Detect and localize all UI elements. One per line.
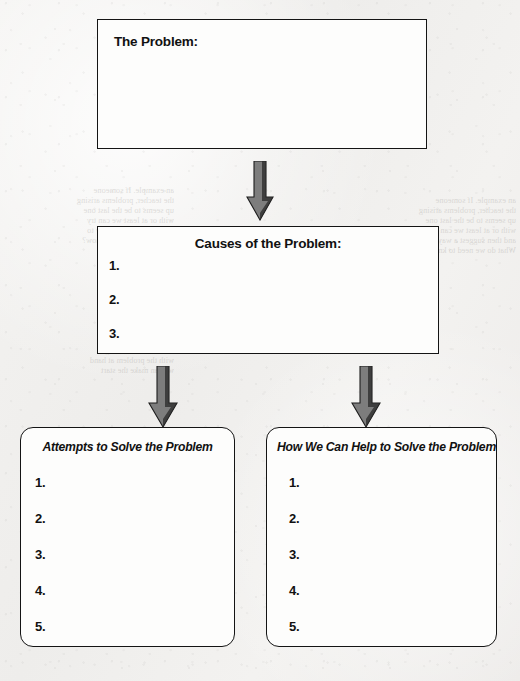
arrow-problem-to-causes-icon bbox=[246, 161, 274, 221]
attempts-box[interactable]: Attempts to Solve the Problem 1. 2. 3. 4… bbox=[20, 427, 235, 647]
help-list: 1. 2. 3. 4. 5. bbox=[289, 475, 299, 655]
arrow-causes-to-help-icon bbox=[351, 366, 381, 428]
attempts-list: 1. 2. 3. 4. 5. bbox=[35, 475, 45, 655]
attempts-box-title: Attempts to Solve the Problem bbox=[21, 440, 234, 454]
list-item[interactable]: 4. bbox=[35, 583, 45, 598]
list-item[interactable]: 4. bbox=[289, 583, 299, 598]
help-box-title: How We Can Help to Solve the Problem bbox=[277, 440, 496, 454]
list-item[interactable]: 1. bbox=[289, 475, 299, 490]
list-item[interactable]: 3. bbox=[109, 326, 119, 341]
arrow-causes-to-attempts-icon bbox=[148, 366, 178, 428]
worksheet-page: an example. If someone the teacher, prob… bbox=[0, 0, 520, 681]
list-item[interactable]: 5. bbox=[289, 619, 299, 634]
problem-box-title: The Problem: bbox=[114, 34, 198, 49]
list-item[interactable]: 2. bbox=[109, 292, 119, 307]
causes-list: 1. 2. 3. bbox=[109, 258, 119, 360]
list-item[interactable]: 3. bbox=[35, 547, 45, 562]
list-item[interactable]: 2. bbox=[289, 511, 299, 526]
help-box[interactable]: How We Can Help to Solve the Problem 1. … bbox=[266, 427, 497, 647]
causes-box[interactable]: Causes of the Problem: 1. 2. 3. bbox=[97, 226, 439, 354]
list-item[interactable]: 1. bbox=[109, 258, 119, 273]
list-item[interactable]: 2. bbox=[35, 511, 45, 526]
problem-box[interactable]: The Problem: bbox=[97, 19, 427, 149]
list-item[interactable]: 1. bbox=[35, 475, 45, 490]
causes-box-title: Causes of the Problem: bbox=[98, 236, 438, 251]
list-item[interactable]: 5. bbox=[35, 619, 45, 634]
list-item[interactable]: 3. bbox=[289, 547, 299, 562]
